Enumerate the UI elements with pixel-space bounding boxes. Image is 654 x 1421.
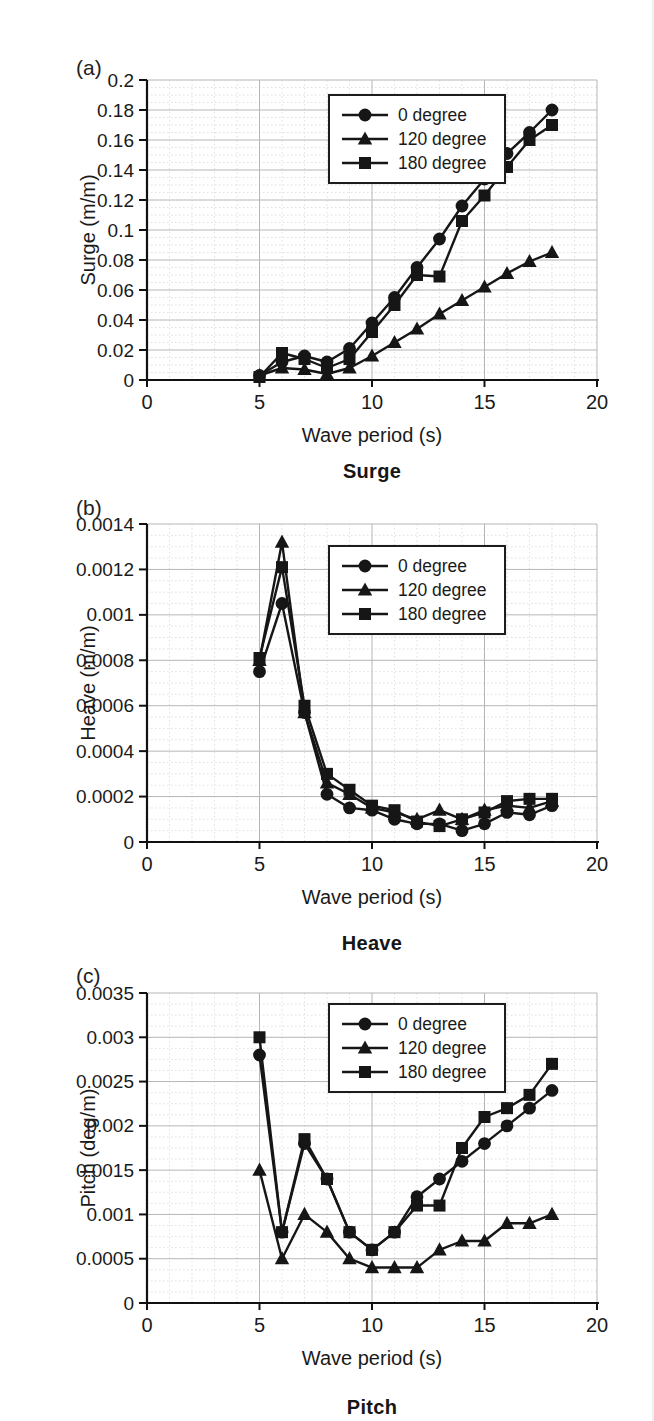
legend-marker-circle: [340, 557, 390, 575]
legend-marker-triangle: [340, 130, 390, 148]
legend-marker-square: [340, 605, 390, 623]
scanned-figure-page: (a) Surge (m/m) 00.020.040.060.080.10.12…: [0, 0, 654, 1421]
svg-text:0: 0: [123, 1293, 134, 1314]
svg-text:0.001: 0.001: [86, 604, 134, 625]
svg-text:0.0015: 0.0015: [76, 1160, 134, 1181]
x-axis-title-pitch: Wave period (s): [147, 1347, 597, 1370]
svg-text:0.002: 0.002: [86, 1115, 134, 1136]
legend-marker-triangle: [340, 1039, 390, 1057]
svg-text:0: 0: [141, 1314, 152, 1336]
legend-entry: 120 degree: [340, 127, 496, 151]
chart-caption-heave: Heave: [147, 932, 597, 955]
legend-label: 0 degree: [398, 1014, 467, 1035]
svg-text:0.1: 0.1: [108, 220, 134, 241]
svg-text:20: 20: [586, 853, 608, 875]
legend-marker-square: [340, 1063, 390, 1081]
legend-label: 180 degree: [398, 604, 487, 625]
chart-caption-pitch: Pitch: [147, 1396, 597, 1419]
svg-text:0.0014: 0.0014: [76, 514, 135, 535]
legend-entry: 120 degree: [340, 578, 496, 602]
svg-text:0.16: 0.16: [97, 130, 134, 151]
legend-pitch: 0 degree 120 degree 180 degree: [328, 1003, 506, 1093]
svg-text:0.0035: 0.0035: [76, 983, 134, 1004]
svg-text:5: 5: [254, 853, 265, 875]
svg-text:0.003: 0.003: [86, 1027, 134, 1048]
chart-caption-surge: Surge: [147, 460, 597, 483]
svg-text:0.18: 0.18: [97, 100, 134, 121]
legend-marker-circle: [340, 106, 390, 124]
svg-text:0.14: 0.14: [97, 160, 134, 181]
pitch-plot: 00.00050.0010.00150.0020.00250.0030.0035…: [0, 957, 654, 1341]
svg-text:0.02: 0.02: [97, 340, 134, 361]
svg-text:0.0025: 0.0025: [76, 1071, 134, 1092]
svg-text:15: 15: [473, 391, 495, 413]
legend-label: 180 degree: [398, 153, 487, 174]
svg-text:20: 20: [586, 1314, 608, 1336]
legend-marker-square: [340, 154, 390, 172]
x-axis-title-surge: Wave period (s): [147, 424, 597, 447]
svg-text:0.0008: 0.0008: [76, 650, 134, 671]
svg-text:10: 10: [361, 853, 383, 875]
x-axis-title-heave: Wave period (s): [147, 886, 597, 909]
svg-text:0.04: 0.04: [97, 310, 134, 331]
legend-entry: 180 degree: [340, 151, 496, 175]
svg-text:0.08: 0.08: [97, 250, 134, 271]
svg-text:0: 0: [123, 370, 134, 391]
legend-label: 0 degree: [398, 105, 467, 126]
legend-heave: 0 degree 120 degree 180 degree: [328, 545, 506, 635]
svg-text:0.0012: 0.0012: [76, 559, 134, 580]
svg-text:0: 0: [141, 853, 152, 875]
legend-label: 120 degree: [398, 1038, 487, 1059]
svg-text:0.0006: 0.0006: [76, 695, 134, 716]
svg-text:0: 0: [123, 832, 134, 853]
svg-text:5: 5: [254, 1314, 265, 1336]
legend-label: 120 degree: [398, 580, 487, 601]
legend-surge: 0 degree 120 degree 180 degree: [328, 94, 506, 184]
svg-text:0.0005: 0.0005: [76, 1248, 134, 1269]
svg-text:15: 15: [473, 1314, 495, 1336]
svg-text:0.0004: 0.0004: [76, 741, 135, 762]
svg-text:10: 10: [361, 391, 383, 413]
heave-plot: 00.00020.00040.00060.00080.0010.00120.00…: [0, 490, 654, 880]
legend-entry: 180 degree: [340, 602, 496, 626]
legend-entry: 0 degree: [340, 103, 496, 127]
svg-text:10: 10: [361, 1314, 383, 1336]
svg-text:20: 20: [586, 391, 608, 413]
svg-text:15: 15: [473, 853, 495, 875]
svg-text:0.0002: 0.0002: [76, 786, 134, 807]
svg-text:0.06: 0.06: [97, 280, 134, 301]
legend-entry: 0 degree: [340, 1012, 496, 1036]
legend-marker-circle: [340, 1015, 390, 1033]
legend-marker-triangle: [340, 581, 390, 599]
legend-entry: 0 degree: [340, 554, 496, 578]
surge-plot: 00.020.040.060.080.10.120.140.160.180.20…: [0, 46, 654, 418]
svg-text:0.001: 0.001: [86, 1204, 134, 1225]
svg-text:5: 5: [254, 391, 265, 413]
legend-label: 180 degree: [398, 1062, 487, 1083]
series-120-degree: [252, 245, 559, 381]
svg-text:0.2: 0.2: [108, 70, 134, 91]
legend-label: 0 degree: [398, 556, 467, 577]
legend-entry: 180 degree: [340, 1060, 496, 1084]
legend-entry: 120 degree: [340, 1036, 496, 1060]
svg-text:0.12: 0.12: [97, 190, 134, 211]
svg-text:0: 0: [141, 391, 152, 413]
legend-label: 120 degree: [398, 129, 487, 150]
